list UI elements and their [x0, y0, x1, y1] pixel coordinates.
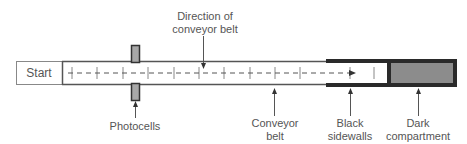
direction-arrowhead [349, 70, 356, 76]
conveyor-label-line2: belt [240, 130, 310, 142]
conveyor-pointer-arrowhead [272, 88, 277, 94]
direction-label-line1: Direction of [155, 10, 255, 22]
compartment-pointer-arrowhead [416, 88, 421, 94]
photocells-label: Photocells [95, 120, 175, 132]
photocell-top [132, 46, 140, 63]
start-label: Start [16, 67, 62, 79]
sidewalls-label-line2: sidewalls [315, 130, 385, 142]
photocell-bottom [132, 84, 140, 101]
sidewalls-label-line1: Black [315, 117, 385, 129]
direction-pointer-arrowhead [201, 63, 206, 69]
direction-label-line2: conveyor belt [155, 23, 255, 35]
compartment-label-line1: Dark [378, 117, 458, 129]
compartment-label-line2: compartment [378, 130, 458, 142]
conveyor-label-line1: Conveyor [240, 117, 310, 129]
dark-compartment-fill [391, 63, 453, 83]
photocells-pointer-arrowhead [133, 101, 138, 107]
sidewalls-pointer-arrowhead [348, 88, 353, 94]
